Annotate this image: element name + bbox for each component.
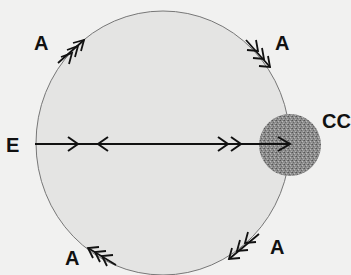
label-cc: CC xyxy=(322,111,351,131)
label-a-top-left: A xyxy=(34,33,48,53)
label-a-top-right: A xyxy=(275,33,289,53)
label-a-bottom-right: A xyxy=(270,237,284,257)
label-a-bottom-left: A xyxy=(65,248,79,268)
label-e: E xyxy=(6,135,19,155)
